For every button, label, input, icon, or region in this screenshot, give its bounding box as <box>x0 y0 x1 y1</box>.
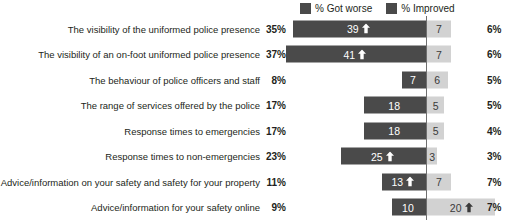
row-improved-percent: 4% <box>487 125 501 136</box>
bar-got-worse: 25 <box>341 148 427 165</box>
chart-row: Response times to emergencies17%1854% <box>0 118 518 144</box>
bar-improved: 7 <box>427 46 451 63</box>
row-improved-percent: 6% <box>487 23 501 34</box>
row-got-worse-percent: 17% <box>260 100 286 111</box>
legend-label-improved: % Improved <box>401 3 454 14</box>
row-improved-percent: 5% <box>487 74 501 85</box>
row-got-worse-percent: 17% <box>260 125 286 136</box>
bar-improved-value: 5 <box>433 126 439 137</box>
bar-improved-value: 7 <box>436 24 442 35</box>
legend-label-got-worse: % Got worse <box>315 3 372 14</box>
row-got-worse-percent: 11% <box>260 176 286 187</box>
bar-got-worse-value: 39 <box>347 24 359 35</box>
row-category-label: The visibility of the uniformed police p… <box>68 23 260 34</box>
row-category-label: Response times to non-emergencies <box>105 151 260 162</box>
bar-improved: 6 <box>427 71 448 88</box>
row-category-label: Advice/information on your safety and sa… <box>1 176 260 187</box>
row-category-label: Advice/information for your safety onlin… <box>91 202 260 213</box>
bar-got-worse: 41 <box>286 46 426 63</box>
up-arrow-icon <box>465 202 473 212</box>
bar-improved-value: 6 <box>434 75 440 86</box>
row-category-label: Response times to emergencies <box>124 125 260 136</box>
row-improved-percent: 5% <box>487 100 501 111</box>
bar-got-worse: 18 <box>364 97 426 114</box>
chart-row: The visibility of an on-foot uniformed p… <box>0 42 518 68</box>
bar-got-worse: 10 <box>392 199 426 216</box>
row-got-worse-percent: 8% <box>260 74 286 85</box>
bar-got-worse-value: 18 <box>388 126 400 137</box>
chart-row: The visibility of the uniformed police p… <box>0 16 518 42</box>
row-got-worse-percent: 37% <box>260 49 286 60</box>
bar-got-worse: 39 <box>293 20 426 37</box>
chart-row: The behaviour of police officers and sta… <box>0 67 518 93</box>
row-got-worse-percent: 9% <box>260 202 286 213</box>
row-improved-percent: 6% <box>487 49 501 60</box>
bar-got-worse-value: 13 <box>391 177 403 188</box>
bar-improved: 5 <box>427 97 444 114</box>
row-improved-percent: 7% <box>487 176 501 187</box>
up-arrow-icon <box>406 177 414 187</box>
diverging-bar-chart: The visibility of the uniformed police p… <box>0 16 518 220</box>
bar-improved: 3 <box>427 148 437 165</box>
bar-got-worse: 13 <box>382 173 426 190</box>
chart-row: The range of services offered by the pol… <box>0 93 518 119</box>
bar-improved-value: 20 <box>450 202 462 213</box>
bar-got-worse-value: 7 <box>410 75 416 86</box>
row-got-worse-percent: 23% <box>260 151 286 162</box>
up-arrow-icon <box>358 49 366 59</box>
legend-item-got-worse: % Got worse <box>300 3 372 14</box>
bar-improved-value: 7 <box>436 49 442 60</box>
bar-got-worse-value: 25 <box>371 151 383 162</box>
row-improved-percent: 7% <box>487 202 501 213</box>
chart-row: Advice/information for your safety onlin… <box>0 195 518 221</box>
bar-got-worse: 7 <box>402 71 426 88</box>
legend-swatch-improved <box>386 3 397 14</box>
up-arrow-icon <box>362 24 370 34</box>
chart-legend: % Got worse % Improved <box>300 1 455 15</box>
bar-improved-value: 7 <box>436 177 442 188</box>
row-category-label: The range of services offered by the pol… <box>81 100 260 111</box>
legend-swatch-got-worse <box>300 3 311 14</box>
chart-rows: The visibility of the uniformed police p… <box>0 16 518 220</box>
bar-improved-value: 5 <box>433 100 439 111</box>
bar-improved: 20 <box>427 199 495 216</box>
up-arrow-icon <box>386 151 394 161</box>
row-category-label: The visibility of an on-foot uniformed p… <box>38 49 260 60</box>
bar-improved: 7 <box>427 173 451 190</box>
row-category-label: The behaviour of police officers and sta… <box>89 74 260 85</box>
bar-improved: 7 <box>427 20 451 37</box>
row-improved-percent: 3% <box>487 151 501 162</box>
bar-got-worse-value: 18 <box>388 100 400 111</box>
row-got-worse-percent: 35% <box>260 23 286 34</box>
bar-got-worse-value: 41 <box>344 49 356 60</box>
bar-got-worse: 18 <box>364 122 426 139</box>
bar-improved: 5 <box>427 122 444 139</box>
legend-item-improved: % Improved <box>386 3 454 14</box>
bar-got-worse-value: 10 <box>402 202 414 213</box>
chart-row: Response times to non-emergencies23%2533… <box>0 144 518 170</box>
bar-improved-value: 3 <box>429 151 435 162</box>
chart-row: Advice/information on your safety and sa… <box>0 169 518 195</box>
